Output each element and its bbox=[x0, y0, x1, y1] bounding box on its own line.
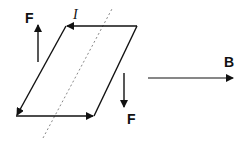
loop-right-edge bbox=[94, 26, 137, 116]
loop-left-edge-arrow bbox=[17, 26, 66, 115]
force-up-label: F bbox=[25, 10, 34, 26]
current-loop bbox=[16, 26, 137, 116]
current-loop-diagram: I F F B bbox=[0, 0, 246, 142]
current-label: I bbox=[72, 7, 79, 22]
force-down-label: F bbox=[127, 111, 136, 127]
magnetic-field-label: B bbox=[224, 54, 234, 70]
